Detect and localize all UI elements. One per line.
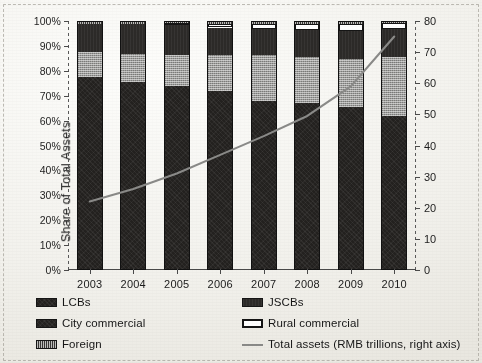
y-tick-label-right: 70 <box>424 47 436 57</box>
y-tick-label-left: 50% <box>40 141 61 151</box>
legend-swatch-rural-commercial-icon <box>242 319 263 328</box>
y-tick-label-left: 20% <box>40 215 61 225</box>
chart-legend: LCBs City commercial Foreign JSCBs Rural… <box>36 296 466 360</box>
legend-swatch-jscbs-icon <box>242 298 263 307</box>
y-tick-label-right: 80 <box>424 16 436 26</box>
x-tick-label-2007: 2007 <box>251 278 277 290</box>
legend-item-rural-commercial: Rural commercial <box>242 317 359 329</box>
y-tick-label-right: 60 <box>424 78 436 88</box>
legend-swatch-total-assets-line-icon <box>242 340 263 349</box>
y-tick-label-left: 0% <box>46 265 61 275</box>
x-tick-label-2005: 2005 <box>164 278 190 290</box>
y-tick-label-right: 20 <box>424 203 436 213</box>
legend-swatch-city-commercial-icon <box>36 319 57 328</box>
y-tick-label-right: 10 <box>424 234 436 244</box>
legend-swatch-lcbs-icon <box>36 298 57 307</box>
y-tick-label-right: 30 <box>424 172 436 182</box>
y-tick-label-left: 40% <box>40 165 61 175</box>
legend-item-jscbs: JSCBs <box>242 296 304 308</box>
x-tick-label-2006: 2006 <box>207 278 233 290</box>
legend-label-jscbs: JSCBs <box>268 296 304 308</box>
y-tick-label-right: 50 <box>424 109 436 119</box>
y-tick-left <box>64 270 69 271</box>
y-tick-label-left: 60% <box>40 116 61 126</box>
legend-item-foreign: Foreign <box>36 338 102 350</box>
y-tick-label-left: 30% <box>40 190 61 200</box>
legend-label-city-commercial: City commercial <box>62 317 145 329</box>
legend-label-lcbs: LCBs <box>62 296 91 308</box>
y-tick-right <box>415 270 420 271</box>
legend-item-lcbs: LCBs <box>36 296 91 308</box>
y-tick-label-left: 10% <box>40 240 61 250</box>
legend-item-total-assets: Total assets (RMB trillions, right axis) <box>242 338 461 350</box>
legend-label-total-assets: Total assets (RMB trillions, right axis) <box>268 338 461 350</box>
y-tick-label-left: 70% <box>40 91 61 101</box>
plot-area: 0%10%20%30%40%50%60%70%80%90%100% 010203… <box>68 21 416 270</box>
x-tick-label-2003: 2003 <box>77 278 103 290</box>
chart-page: Share of Total Assets 0%10%20%30%40%50%6… <box>0 0 482 363</box>
y-tick-label-left: 100% <box>34 16 61 26</box>
legend-item-city-commercial: City commercial <box>36 317 145 329</box>
x-tick-label-2004: 2004 <box>120 278 146 290</box>
y-tick-label-right: 40 <box>424 141 436 151</box>
x-tick-label-2010: 2010 <box>381 278 407 290</box>
legend-swatch-foreign-icon <box>36 340 57 349</box>
x-tick-label-2008: 2008 <box>294 278 320 290</box>
y-tick-label-right: 0 <box>424 265 430 275</box>
legend-label-foreign: Foreign <box>62 338 102 350</box>
x-tick-label-2009: 2009 <box>338 278 364 290</box>
total-assets-line-series <box>68 21 416 270</box>
y-tick-label-left: 80% <box>40 66 61 76</box>
legend-label-rural-commercial: Rural commercial <box>268 317 359 329</box>
y-tick-label-left: 90% <box>40 41 61 51</box>
